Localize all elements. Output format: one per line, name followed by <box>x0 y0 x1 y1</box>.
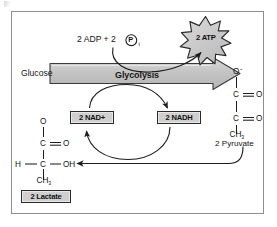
pyruvate-atom-ch3: CH3 <box>230 130 245 140</box>
glycolysis-label: Glycolysis <box>115 70 159 80</box>
pyruvate-atom-o2: O <box>256 114 262 123</box>
figure-glycolysis-lactate: Glucose Glycolysis 2 ADP + 2 P i 2 ATP 2… <box>0 0 277 227</box>
lactate-atom-ch3: CH3 <box>37 176 52 186</box>
nad-plus-label: 2 NAD+ <box>79 113 105 122</box>
pyruvate-atom-c1: C <box>233 90 239 99</box>
glucose-label: Glucose <box>21 69 53 78</box>
pyruvate-ch3-text: CH <box>230 130 242 139</box>
lactate-label: 2 Lactate <box>30 192 61 201</box>
pyruvate-atom-o-minus: O <box>233 67 239 76</box>
lactate-atom-c2: C <box>40 160 46 169</box>
nadh-label: 2 NADH <box>165 113 192 122</box>
pyruvate-atom-c2: C <box>233 114 239 123</box>
phosphate-subscript-i: i <box>139 41 140 47</box>
lactate-ch3-text: CH <box>37 176 49 185</box>
atp-label: 2 ATP <box>196 33 216 42</box>
adp-label: 2 ADP + 2 <box>77 35 116 44</box>
pyruvate-charge-minus: - <box>240 65 242 72</box>
arrow-nadh-to-nad-plus <box>87 127 171 160</box>
nad-plus-box: 2 NAD+ <box>70 111 114 124</box>
nadh-box: 2 NADH <box>157 111 201 124</box>
lactate-atom-c1: C <box>40 139 46 148</box>
lactate-structure-bonds <box>25 127 61 180</box>
lactate-atom-h: H <box>15 160 21 169</box>
pyruvate-atom-o1: O <box>256 90 262 99</box>
lactate-atom-o1: O <box>63 139 69 148</box>
phosphate-p-letter: P <box>128 36 133 43</box>
arrow-nad-plus-to-nadh <box>90 85 168 109</box>
lactate-ch3-subscript: 3 <box>48 180 51 186</box>
pyruvate-ch3-subscript: 3 <box>241 134 244 140</box>
lactate-atom-o-top: O <box>40 117 46 126</box>
pyruvate-structure-bonds <box>237 77 255 134</box>
lactate-box: 2 Lactate <box>21 190 71 203</box>
pyruvate-label: 2 Pyruvate <box>215 140 254 148</box>
lactate-atom-oh: OH <box>63 160 75 169</box>
